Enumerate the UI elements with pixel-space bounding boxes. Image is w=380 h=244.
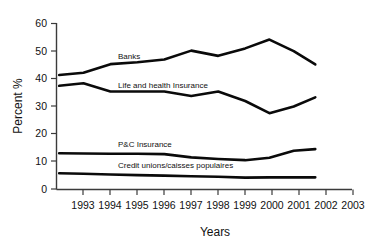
line-chart-figure: 60 50 40 30 20 10 0 1993 1994 1995 [0, 0, 380, 244]
x-tick-label-2003: 2003 [341, 199, 365, 211]
x-axis-title: Years [200, 225, 230, 239]
y-tick-label-40: 40 [35, 72, 47, 84]
series-line-credit-unions [59, 173, 315, 177]
series-label-life-and-health-insurance: Life and health Insurance [118, 81, 208, 90]
series-label-banks: Banks [118, 52, 140, 61]
x-axis-tick-labels: 1993 1994 1995 1996 1997 1998 1999 2000 … [71, 199, 365, 211]
chart-canvas: 60 50 40 30 20 10 0 1993 1994 1995 [0, 0, 380, 244]
x-tick-label-1998: 1998 [206, 199, 230, 211]
x-tick-label-1999: 1999 [233, 199, 257, 211]
x-axis-ticks [83, 190, 353, 196]
y-tick-label-30: 30 [35, 100, 47, 112]
x-tick-label-1995: 1995 [125, 199, 149, 211]
y-tick-label-20: 20 [35, 127, 47, 139]
x-tick-label-1994: 1994 [98, 199, 122, 211]
y-tick-label-10: 10 [35, 155, 47, 167]
y-tick-label-0: 0 [41, 183, 47, 195]
y-tick-label-50: 50 [35, 45, 47, 57]
y-axis-title: Percent % [11, 78, 25, 134]
series-line-banks [59, 40, 315, 75]
series-label-pc-insurance: P&C Insurance [118, 140, 172, 149]
x-tick-label-1997: 1997 [179, 199, 203, 211]
series-line-pc-insurance [59, 149, 315, 160]
x-tick-label-2000: 2000 [260, 199, 284, 211]
series-label-credit-unions: Credit unions/caisses populaires [118, 161, 233, 170]
x-tick-label-1993: 1993 [71, 199, 95, 211]
x-tick-label-2002: 2002 [314, 199, 338, 211]
y-tick-label-60: 60 [35, 17, 47, 29]
x-tick-label-1996: 1996 [152, 199, 176, 211]
y-axis-tick-labels: 60 50 40 30 20 10 0 [35, 17, 47, 195]
x-tick-label-2001: 2001 [287, 199, 311, 211]
y-axis-ticks [51, 24, 57, 190]
